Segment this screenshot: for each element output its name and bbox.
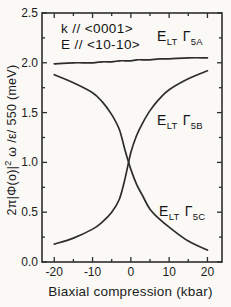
curve-label-gamma: Γ <box>183 28 191 44</box>
curve-e-lt-5a <box>54 58 207 64</box>
curve-label-gamma5a: ELTΓ5A <box>157 28 203 47</box>
y-axis-label-sup: 2 <box>3 160 13 165</box>
k-direction-label: k // <0001> <box>61 21 140 37</box>
x-tick-label: -20 <box>46 265 64 279</box>
curve-label-symbol: E <box>159 203 169 219</box>
curve-label-symbol-sub: LT <box>169 211 180 222</box>
x-tick-label: -10 <box>84 265 102 279</box>
y-tick-label: 1.0 <box>21 155 38 169</box>
curve-label-gamma: Γ <box>185 203 193 219</box>
x-axis-label: Biaxial compression (kbar) <box>30 284 231 299</box>
x-tick-label: 10 <box>162 265 176 279</box>
y-tick-label: 2.0 <box>21 56 38 70</box>
curve-label-gamma-sub: 5B <box>191 120 203 131</box>
figure: -20-10010202.52.01.51.00.50.0 2π|Φ(o)|2 … <box>0 0 231 307</box>
y-axis-label-pre: 2π|Φ(o)| <box>5 166 19 216</box>
y-tick-label: 1.5 <box>21 106 38 120</box>
direction-annotations: k // <0001> E // <10-10> <box>61 21 140 53</box>
curve-label-gamma: Γ <box>183 112 191 128</box>
curve-label-gamma-sub: 5A <box>191 36 203 47</box>
e-direction-label: E // <10-10> <box>61 37 140 53</box>
curve-label-gamma5b: ELTΓ5B <box>157 112 203 131</box>
curve-label-symbol: E <box>157 28 167 44</box>
x-tick-label: 20 <box>201 265 215 279</box>
y-tick-label: 0.0 <box>21 255 38 269</box>
curve-e-lt-5c <box>54 75 207 250</box>
curve-label-symbol-sub: LT <box>167 120 178 131</box>
y-tick-label: 2.5 <box>21 6 38 20</box>
y-axis-label: 2π|Φ(o)|2 ω /ε/ 550 (meV) <box>3 65 19 216</box>
curve-label-symbol: E <box>157 112 167 128</box>
y-axis-label-post: ω /ε/ 550 (meV) <box>5 65 19 161</box>
x-tick-label: 0 <box>128 265 135 279</box>
curve-label-gamma5c: ELTΓ5C <box>159 203 205 222</box>
y-tick-label: 0.5 <box>21 205 38 219</box>
curve-label-gamma-sub: 5C <box>193 211 206 222</box>
curve-label-symbol-sub: LT <box>167 36 178 47</box>
